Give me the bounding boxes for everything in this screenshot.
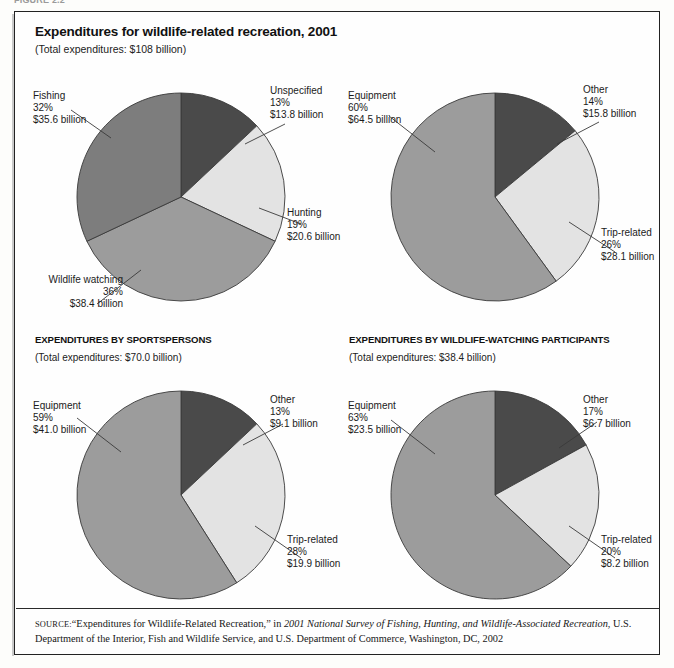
source-text-1: “Expenditures for Wildlife-Related Recre…	[72, 618, 284, 629]
label-equipment-3-value: $41.0 billion	[33, 424, 86, 436]
figure-number-strip: FIGURE 2.2	[14, 0, 134, 9]
label-trip-related-4-value: $8.2 billion	[601, 558, 652, 570]
label-trip-related-2-percent: 26%	[601, 239, 654, 251]
label-other-2-percent: 14%	[583, 96, 636, 108]
label-other-2: Other 14% $15.8 billion	[583, 84, 636, 121]
label-hunting-percent: 19%	[287, 219, 340, 231]
label-trip-related-4-name: Trip-related	[601, 534, 652, 546]
pie-slices-sportspersons	[77, 391, 285, 599]
pie-slices-total	[77, 93, 285, 301]
label-fishing: Fishing 32% $35.6 billion	[33, 90, 86, 127]
label-hunting-value: $20.6 billion	[287, 231, 340, 243]
label-other-3-name: Other	[270, 394, 318, 406]
label-trip-related-4: Trip-related 20% $8.2 billion	[601, 534, 652, 571]
page-title: Expenditures for wildlife-related recrea…	[35, 24, 337, 39]
label-other-4: Other 17% $6.7 billion	[583, 394, 631, 431]
label-wildlife-watching-name: Wildlife watching	[15, 274, 123, 286]
label-equipment-3-percent: 59%	[33, 412, 86, 424]
label-fishing-percent: 32%	[33, 102, 86, 114]
pie-slices-categories	[391, 93, 599, 301]
label-unspecified-name: Unspecified	[270, 85, 323, 97]
label-other-4-percent: 17%	[583, 406, 631, 418]
source-italic-title: 2001 National Survey of Fishing, Hunting…	[284, 618, 608, 629]
label-other-3-value: $9.1 billion	[270, 418, 318, 430]
section-heading-sportspersons: EXPENDITURES BY SPORTSPERSONS	[35, 334, 212, 345]
source-divider	[16, 608, 660, 609]
label-trip-related-3-value: $19.9 billion	[287, 558, 340, 570]
label-trip-related-3-percent: 28%	[287, 546, 340, 558]
label-equipment-2-percent: 60%	[348, 102, 401, 114]
page-subtitle: (Total expenditures: $108 billion)	[35, 43, 186, 55]
label-trip-related-2-value: $28.1 billion	[601, 251, 654, 263]
figure-frame: Expenditures for wildlife-related recrea…	[14, 11, 660, 655]
label-fishing-name: Fishing	[33, 90, 86, 102]
label-equipment-3-name: Equipment	[33, 400, 86, 412]
label-equipment-4-name: Equipment	[348, 400, 401, 412]
label-trip-related-3-name: Trip-related	[287, 534, 340, 546]
label-wildlife-watching-value: $38.4 billion	[15, 298, 123, 310]
label-other-4-name: Other	[583, 394, 631, 406]
section-subtitle-wildlife-watching: (Total expenditures: $38.4 billion)	[349, 352, 496, 363]
label-hunting-name: Hunting	[287, 207, 340, 219]
label-equipment-2-value: $64.5 billion	[348, 114, 401, 126]
label-equipment-4: Equipment 63% $23.5 billion	[348, 400, 401, 437]
label-unspecified: Unspecified 13% $13.8 billion	[270, 85, 323, 122]
label-equipment-2: Equipment 60% $64.5 billion	[348, 90, 401, 127]
label-trip-related-4-percent: 20%	[601, 546, 652, 558]
source-note: SOURCE:“Expenditures for Wildlife-Relate…	[35, 617, 645, 645]
label-unspecified-value: $13.8 billion	[270, 109, 323, 121]
label-unspecified-percent: 13%	[270, 97, 323, 109]
label-equipment-2-name: Equipment	[348, 90, 401, 102]
source-label: SOURCE:	[35, 620, 72, 629]
label-equipment-3: Equipment 59% $41.0 billion	[33, 400, 86, 437]
label-trip-related-3: Trip-related 28% $19.9 billion	[287, 534, 340, 571]
label-trip-related-2: Trip-related 26% $28.1 billion	[601, 227, 654, 264]
label-wildlife-watching-percent: 36%	[15, 286, 123, 298]
label-equipment-4-value: $23.5 billion	[348, 424, 401, 436]
label-trip-related-2-name: Trip-related	[601, 227, 654, 239]
label-other-3-percent: 13%	[270, 406, 318, 418]
label-hunting: Hunting 19% $20.6 billion	[287, 207, 340, 244]
section-heading-wildlife-watching: EXPENDITURES BY WILDLIFE-WATCHING PARTIC…	[349, 334, 610, 345]
label-other-2-value: $15.8 billion	[583, 108, 636, 120]
pie-slices-wildlife-watching	[391, 391, 599, 599]
label-fishing-value: $35.6 billion	[33, 114, 86, 126]
figure-number: FIGURE 2.2	[14, 0, 134, 5]
label-equipment-4-percent: 63%	[348, 412, 401, 424]
label-other-2-name: Other	[583, 84, 636, 96]
label-other-4-value: $6.7 billion	[583, 418, 631, 430]
label-wildlife-watching: Wildlife watching 36% $38.4 billion	[15, 274, 123, 311]
section-subtitle-sportspersons: (Total expenditures: $70.0 billion)	[35, 352, 182, 363]
label-other-3: Other 13% $9.1 billion	[270, 394, 318, 431]
